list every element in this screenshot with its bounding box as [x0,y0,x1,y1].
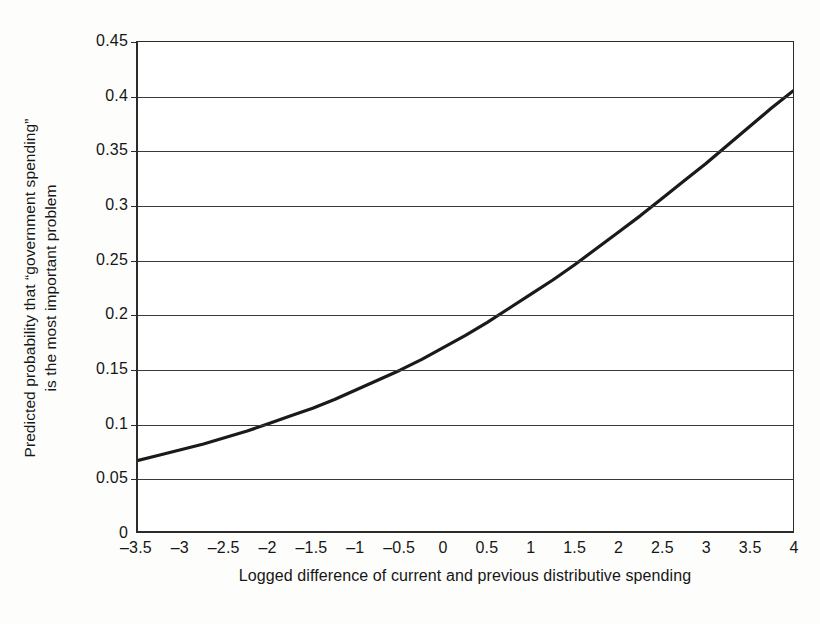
x-axis-tick-label: 3.5 [739,538,762,558]
plot-area [136,41,794,533]
y-axis-tick-mark [131,42,138,43]
y-axis-tick-mark [131,370,138,371]
x-axis-tick-label: 3 [702,538,711,558]
gridline [138,261,793,262]
x-axis-tick-label: –1.5 [295,538,327,558]
x-axis-tick-label: 1.5 [563,538,586,558]
y-axis-tick-label: 0.4 [70,88,128,104]
gridline [138,370,793,371]
x-axis-tick-label: –2 [258,538,276,558]
y-axis-tick-label: 0.1 [70,416,128,432]
x-axis-tick-label: –2.5 [208,538,240,558]
x-axis-title: Logged difference of current and previou… [136,566,794,586]
y-axis-tick-mark [131,425,138,426]
x-axis-tick-label: 2 [614,538,623,558]
y-axis-title: Predicted probability that “government s… [14,42,66,533]
x-axis-tick-label: 1 [526,538,535,558]
x-axis-tick-label: –1 [346,538,364,558]
y-axis-tick-label: 0.25 [70,252,128,268]
chart-figure: Predicted probability that “government s… [0,0,820,624]
y-axis-tick-label: 0.35 [70,142,128,158]
y-axis-title-line2: is the most important problem [40,118,61,457]
x-axis-tick-label: –3.5 [120,538,152,558]
x-axis-tick-labels: –3.5–3–2.5–2–1.5–1–0.500.511.522.533.54 [136,538,794,564]
y-axis-tick-label: 0.45 [70,33,128,49]
y-axis-tick-mark [131,315,138,316]
y-axis-tick-mark [131,479,138,480]
y-axis-tick-mark [131,151,138,152]
y-axis-tick-label: 0.3 [70,197,128,213]
gridline [138,151,793,152]
gridline [138,479,793,480]
y-axis-tick-label: 0.2 [70,306,128,322]
gridline [138,206,793,207]
x-axis-tick-label: 2.5 [651,538,674,558]
y-axis-tick-label: 0.05 [70,470,128,486]
y-axis-tick-label: 0.15 [70,361,128,377]
x-axis-tick-label: 0 [439,538,448,558]
x-axis-tick-label: 4 [789,538,798,558]
gridline [138,97,793,98]
x-axis-tick-label: –0.5 [383,538,415,558]
y-axis-tick-mark [131,206,138,207]
x-axis-tick-label: 0.5 [476,538,499,558]
y-axis-tick-mark [131,97,138,98]
gridline [138,425,793,426]
y-axis-tick-mark [131,261,138,262]
probability-curve [138,42,793,531]
y-axis-title-line1: Predicted probability that “government s… [21,118,38,457]
gridline [138,315,793,316]
x-axis-tick-label: –3 [171,538,189,558]
y-axis-tick-labels: 00.050.10.150.20.250.30.350.40.45 [66,0,128,624]
